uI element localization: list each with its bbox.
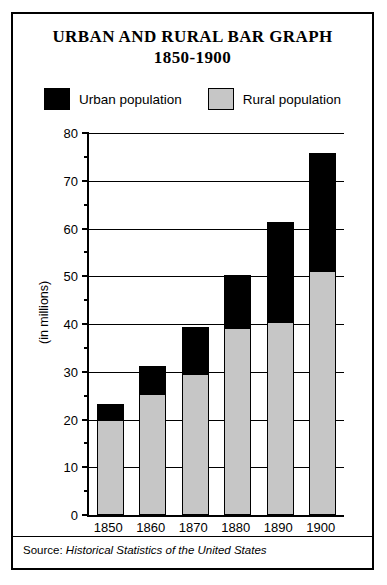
bar-slot-1850 xyxy=(89,133,132,515)
bar-segment-rural-1870 xyxy=(182,375,209,515)
y-tick-label-0: 0 xyxy=(71,508,78,523)
chart-title: URBAN AND RURAL BAR GRAPH 1850-1900 xyxy=(13,26,372,68)
bar-segment-urban-1850 xyxy=(97,404,124,421)
bar-segment-urban-1900 xyxy=(309,153,336,273)
x-tick-label-1860: 1860 xyxy=(130,520,173,535)
plot-area: 01020304050607080 xyxy=(87,133,344,517)
bar-slot-1870 xyxy=(174,133,217,515)
legend-item-urban: Urban population xyxy=(44,88,182,110)
y-tick-label-80: 80 xyxy=(64,126,78,141)
y-tick-label-20: 20 xyxy=(64,412,78,427)
bar-segment-urban-1880 xyxy=(224,275,251,328)
title-line-2: 1850-1900 xyxy=(13,47,372,68)
source-note: Source: Historical Statistics of the Uni… xyxy=(23,544,267,556)
stacked-bar-1850[interactable] xyxy=(97,404,124,515)
stacked-bar-1900[interactable] xyxy=(309,153,336,515)
x-tick-label-1890: 1890 xyxy=(257,520,300,535)
y-tick-80 xyxy=(82,132,89,134)
y-tick-label-50: 50 xyxy=(64,269,78,284)
bar-segment-rural-1890 xyxy=(267,323,294,515)
y-tick-70 xyxy=(82,180,89,182)
source-divider xyxy=(13,536,372,537)
y-tick-10 xyxy=(82,466,89,468)
y-tick-label-10: 10 xyxy=(64,460,78,475)
stacked-bar-1890[interactable] xyxy=(267,222,294,515)
y-tick-label-60: 60 xyxy=(64,221,78,236)
bar-slot-1900 xyxy=(302,133,345,515)
stacked-bar-1860[interactable] xyxy=(139,366,166,515)
source-body: Historical Statistics of the United Stat… xyxy=(66,544,267,556)
y-tick-label-70: 70 xyxy=(64,173,78,188)
y-tick-20 xyxy=(82,419,89,421)
x-tick-label-1900: 1900 xyxy=(300,520,343,535)
y-tick-30 xyxy=(82,371,89,373)
y-axis-caption: (in millions) xyxy=(37,281,51,344)
y-tick-60 xyxy=(82,228,89,230)
bar-segment-urban-1890 xyxy=(267,222,294,323)
legend-label-urban: Urban population xyxy=(79,92,182,107)
chart-legend: Urban population Rural population xyxy=(13,88,372,110)
bar-segment-rural-1900 xyxy=(309,272,336,515)
legend-item-rural: Rural population xyxy=(208,88,341,110)
bar-slot-1890 xyxy=(259,133,302,515)
legend-label-rural: Rural population xyxy=(243,92,341,107)
bar-segment-urban-1870 xyxy=(182,327,209,375)
bar-slot-1880 xyxy=(217,133,260,515)
bar-group xyxy=(89,133,344,515)
bar-segment-rural-1860 xyxy=(139,395,166,515)
y-tick-label-30: 30 xyxy=(64,364,78,379)
x-tick-label-1870: 1870 xyxy=(172,520,215,535)
y-tick-40 xyxy=(82,323,89,325)
x-tick-label-1880: 1880 xyxy=(215,520,258,535)
title-line-1: URBAN AND RURAL BAR GRAPH xyxy=(13,26,372,47)
bar-slot-1860 xyxy=(132,133,175,515)
legend-swatch-urban-icon xyxy=(44,88,70,110)
stacked-bar-1870[interactable] xyxy=(182,327,209,515)
y-tick-label-40: 40 xyxy=(64,317,78,332)
chart-figure: URBAN AND RURAL BAR GRAPH 1850-1900 Urba… xyxy=(11,12,374,570)
bar-segment-urban-1860 xyxy=(139,366,166,395)
legend-swatch-rural-icon xyxy=(208,88,234,110)
bar-segment-rural-1850 xyxy=(97,421,124,515)
stacked-bar-1880[interactable] xyxy=(224,275,251,515)
source-lead: Source: xyxy=(23,544,63,556)
y-tick-0 xyxy=(82,514,89,516)
bar-segment-rural-1880 xyxy=(224,329,251,515)
y-tick-50 xyxy=(82,275,89,277)
x-tick-label-1850: 1850 xyxy=(87,520,130,535)
x-axis-labels: 185018601870188018901900 xyxy=(87,520,342,535)
